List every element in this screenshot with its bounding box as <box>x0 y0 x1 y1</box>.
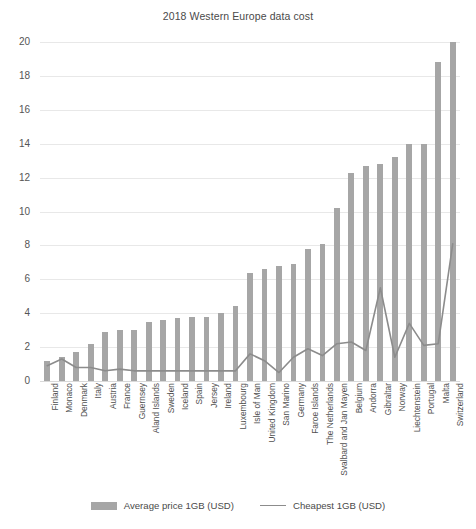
x-tick-label: Iceland <box>181 383 189 410</box>
x-tick-label: Switzerland <box>456 383 464 426</box>
x-tick-label: Andorra <box>369 383 377 413</box>
y-tick-label: 10 <box>0 205 30 216</box>
x-tick-label: Sweden <box>167 383 175 413</box>
x-tick-label: Ireland <box>224 383 232 409</box>
x-tick-label: Luxembourg <box>239 383 247 430</box>
x-tick-label: Aland Islands <box>152 383 160 433</box>
y-tick-label: 12 <box>0 171 30 182</box>
chart-root: 2018 Western Europe data cost 0246810121… <box>0 0 476 529</box>
x-tick-label: Italy <box>94 383 102 398</box>
x-tick-label: Guernsey <box>138 383 146 419</box>
x-tick-label: Norway <box>398 383 406 411</box>
x-tick-label: Svalbard and Jan Mayen <box>340 383 348 476</box>
x-axis-line <box>40 381 460 382</box>
x-tick-label: Austria <box>109 383 117 409</box>
plot-area <box>40 42 460 381</box>
x-tick-label: Jersey <box>210 383 218 408</box>
x-tick-label: Isle of Man <box>253 383 261 424</box>
line-swatch-icon <box>260 505 286 506</box>
x-axis-category-labels: FinlandMonacoDenmarkItalyAustriaFranceGu… <box>40 383 460 483</box>
y-tick-label: 18 <box>0 69 30 80</box>
x-tick-label: San Marino <box>282 383 290 426</box>
x-tick-label: Belgium <box>355 383 363 413</box>
y-tick-label: 14 <box>0 137 30 148</box>
bar-swatch-icon <box>91 502 117 510</box>
y-axis-tick-labels: 02468101214161820 <box>0 42 34 381</box>
y-tick-label: 20 <box>0 36 30 47</box>
x-tick-label: France <box>123 383 131 409</box>
x-tick-label: Germany <box>297 383 305 417</box>
legend-label-cheapest-price: Cheapest 1GB (USD) <box>293 500 385 511</box>
chart-title: 2018 Western Europe data cost <box>0 10 476 22</box>
line-series <box>40 42 460 381</box>
x-tick-label: Denmark <box>80 383 88 417</box>
x-tick-label: Gibraltar <box>384 383 392 415</box>
x-tick-label: Monaco <box>65 383 73 413</box>
legend-item-cheapest-price: Cheapest 1GB (USD) <box>260 500 385 511</box>
y-tick-label: 6 <box>0 273 30 284</box>
x-tick-label: Liechtenstein <box>413 383 421 432</box>
y-tick-label: 2 <box>0 341 30 352</box>
legend-item-average-price: Average price 1GB (USD) <box>91 500 234 511</box>
x-tick-label: United Kingdom <box>268 383 276 443</box>
legend-label-average-price: Average price 1GB (USD) <box>124 500 234 511</box>
x-tick-label: Spain <box>195 383 203 404</box>
chart-legend: Average price 1GB (USD) Cheapest 1GB (US… <box>0 500 476 511</box>
y-tick-label: 16 <box>0 103 30 114</box>
cheapest-price-line <box>47 244 453 373</box>
y-tick-label: 8 <box>0 239 30 250</box>
x-tick-label: The Netherlands <box>326 383 334 445</box>
y-tick-label: 0 <box>0 375 30 386</box>
x-tick-label: Malta <box>442 383 450 403</box>
y-tick-label: 4 <box>0 307 30 318</box>
x-tick-label: Faroe Islands <box>311 383 319 434</box>
x-tick-label: Finland <box>51 383 59 410</box>
x-tick-label: Portugal <box>427 383 435 414</box>
